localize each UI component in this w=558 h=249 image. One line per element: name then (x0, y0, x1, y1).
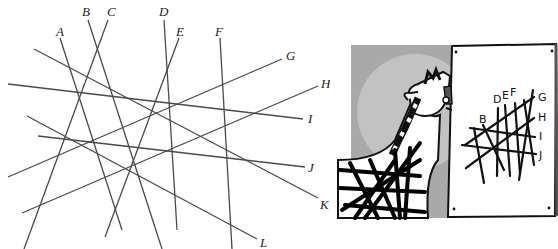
label-e: E (175, 24, 184, 39)
line-h (22, 86, 318, 213)
label-k: K (319, 197, 330, 212)
line-e (105, 38, 179, 237)
label-h: H (320, 76, 331, 91)
poster-label-d: D (493, 93, 501, 106)
label-a: A (55, 24, 64, 39)
label-g: G (286, 48, 296, 63)
poster-label-b: B (479, 113, 487, 126)
line-f (220, 38, 232, 249)
label-j: J (308, 160, 315, 175)
label-c: C (107, 4, 116, 19)
label-d: D (158, 4, 169, 19)
label-f: F (214, 24, 224, 39)
label-i: I (307, 111, 313, 126)
line-d (164, 20, 177, 230)
label-b: B (82, 4, 90, 19)
poster-label-e: E (502, 89, 509, 102)
line-k (34, 49, 318, 198)
poster-label-f: F (510, 86, 516, 99)
line-puzzle: ABCDEFGHIJKL (8, 4, 331, 249)
line-l (27, 116, 257, 239)
zebra-cartoon: B D E F G H I J (330, 20, 557, 249)
poster-label-g: G (538, 91, 547, 104)
line-b (88, 20, 162, 249)
poster-label-j: J (538, 149, 542, 162)
poster-label-h: H (538, 111, 546, 124)
label-l: L (259, 235, 267, 249)
poster: B D E F G H I J (448, 44, 557, 217)
line-c (24, 20, 108, 249)
line-puzzle-figure: ABCDEFGHIJKL (0, 0, 558, 249)
poster-label-i: I (539, 130, 542, 143)
